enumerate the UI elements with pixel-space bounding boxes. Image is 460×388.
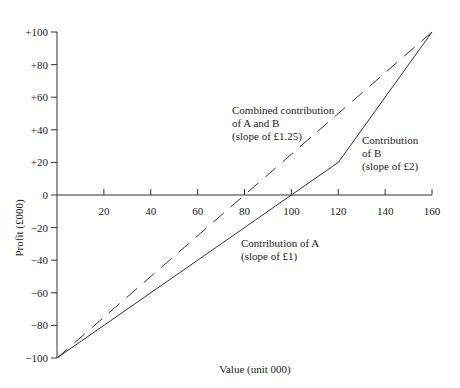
x-tick-label: 80 <box>239 205 251 217</box>
x-tick-label: 100 <box>283 205 300 217</box>
y-tick-label: +40 <box>31 124 49 136</box>
y-axis: +100+80+60+40+200−20−40−60−80−100 <box>25 26 57 364</box>
x-tick-label: 140 <box>377 205 394 217</box>
y-tick-label: −80 <box>31 319 49 331</box>
annotation-combined: Combined contribution of A and B (slope … <box>232 104 337 143</box>
x-tick-label: 120 <box>330 205 347 217</box>
y-tick-label: −40 <box>31 254 49 266</box>
y-tick-label: 0 <box>43 189 49 201</box>
y-tick-label: −20 <box>31 222 49 234</box>
annotation-contribution-a: Contribution of A (slope of £1) <box>241 237 321 263</box>
y-axis-label: Profit (£000) <box>13 199 26 256</box>
y-tick-label: −100 <box>25 352 48 364</box>
x-tick-label: 40 <box>145 205 157 217</box>
annotation-contribution-b: Contribution of B (slope of £2) <box>362 134 421 173</box>
x-axis-label: Value (unit 000) <box>219 363 291 376</box>
x-axis: 20406080100120140160 <box>57 189 441 217</box>
break-even-chart: +100+80+60+40+200−20−40−60−80−100 204060… <box>0 0 460 388</box>
y-tick-label: +80 <box>31 59 49 71</box>
y-tick-label: +100 <box>25 26 48 38</box>
x-tick-label: 60 <box>192 205 204 217</box>
y-tick-label: +20 <box>31 156 49 168</box>
y-tick-label: +60 <box>31 91 49 103</box>
y-tick-label: −60 <box>31 287 49 299</box>
x-tick-label: 160 <box>424 205 441 217</box>
x-tick-label: 20 <box>98 205 110 217</box>
